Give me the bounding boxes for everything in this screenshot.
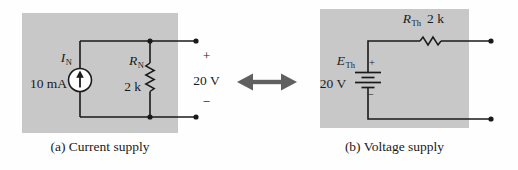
norton-resistor-symbol: RN: [122, 54, 144, 69]
caption-current-supply: (a) Current supply: [22, 139, 178, 155]
equivalence-arrow-icon: [237, 74, 297, 91]
terminal-minus-sign: −: [199, 95, 214, 109]
thevenin-source-value: 20 V: [317, 77, 349, 91]
current-supply-panel-background: [22, 13, 178, 133]
thevenin-norton-figure: IN 10 mA RN 2 k + 20 V − (a) Current sup…: [0, 0, 518, 170]
battery-minus-sign: −: [365, 90, 377, 100]
battery-plus-sign: +: [366, 58, 378, 68]
caption-voltage-supply: (b) Voltage supply: [320, 139, 469, 155]
thevenin-resistor-value: 2 k: [427, 12, 449, 26]
thevenin-terminal-dots: [488, 38, 493, 121]
thevenin-source-symbol: ETh: [331, 54, 355, 69]
terminal-voltage-value: 20 V: [188, 74, 225, 88]
norton-resistor-value: 2 k: [120, 80, 141, 94]
thevenin-resistor-symbol: RTh: [397, 12, 421, 27]
current-source-icon: [69, 69, 92, 92]
norton-current-value: 10 mA: [26, 77, 67, 91]
terminal-plus-sign: +: [199, 49, 214, 63]
norton-current-symbol: IN: [50, 51, 72, 66]
